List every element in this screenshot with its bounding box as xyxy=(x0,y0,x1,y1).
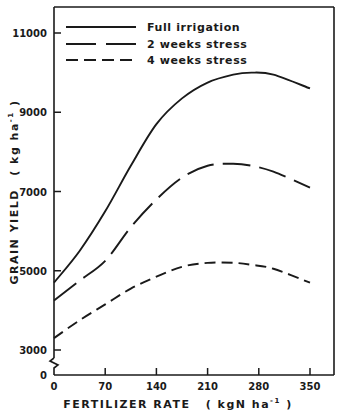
legend-label-4-weeks-stress: 4 weeks stress xyxy=(147,54,247,67)
y-axis-unit-close: ) xyxy=(8,100,21,112)
legend-label-full-irrigation: Full irrigation xyxy=(147,21,240,34)
legend: Full irrigation 2 weeks stress 4 weeks s… xyxy=(66,21,247,67)
series-4-weeks-stress xyxy=(54,262,310,338)
y-axis-unit: ( kg ha xyxy=(8,122,21,176)
y-axis-title: GRAIN YIELD ( kg ha-1 ) xyxy=(7,100,21,285)
x-tick-label: 350 xyxy=(300,381,321,392)
y-tick-label: 9000 xyxy=(19,107,47,118)
y-tick-label: 7000 xyxy=(19,187,47,198)
y-tick-label: 3000 xyxy=(19,345,47,356)
x-tick-label: 70 xyxy=(98,381,112,392)
y-tick-label: 5000 xyxy=(19,266,47,277)
x-tick-label: 210 xyxy=(197,381,218,392)
series-full-irrigation xyxy=(54,73,310,283)
x-axis-unit: ( kgN ha xyxy=(206,398,270,411)
x-axis-ticks: 070140210280350 xyxy=(51,368,321,392)
x-axis-unit-close: ) xyxy=(281,398,293,411)
axis-break-icon xyxy=(50,358,58,375)
y-tick-label: 11000 xyxy=(12,28,47,39)
legend-label-2-weeks-stress: 2 weeks stress xyxy=(147,38,247,51)
x-axis-unit-sup: -1 xyxy=(270,397,281,405)
y-tick-label: 0 xyxy=(40,370,47,381)
x-axis-label: FERTILIZER RATE xyxy=(63,398,190,411)
data-series xyxy=(54,73,310,339)
x-axis-title: FERTILIZER RATE ( kgN ha-1 ) xyxy=(63,397,292,411)
x-tick-label: 280 xyxy=(248,381,269,392)
x-tick-label: 0 xyxy=(51,381,58,392)
yield-chart: 0300050007000900011000 070140210280350 F… xyxy=(0,0,340,416)
x-tick-label: 140 xyxy=(146,381,167,392)
y-axis-label: GRAIN YIELD xyxy=(8,189,21,284)
y-axis-unit-sup: -1 xyxy=(7,111,15,122)
